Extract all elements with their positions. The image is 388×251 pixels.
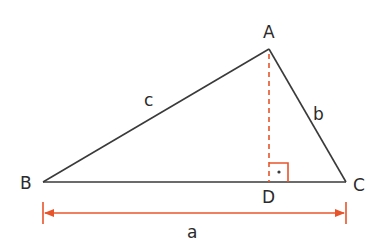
- vertex-label-d: D: [262, 187, 275, 207]
- side-label-a: a: [187, 222, 197, 242]
- side-b-line: [269, 49, 346, 182]
- triangle-diagram: A B C D c b a: [0, 0, 388, 251]
- side-label-b: b: [313, 104, 324, 124]
- vertex-label-c: C: [353, 175, 365, 195]
- side-c-line: [43, 49, 269, 182]
- side-label-c: c: [144, 90, 153, 110]
- vertex-label-a: A: [263, 22, 275, 42]
- vertex-label-b: B: [20, 173, 32, 193]
- right-angle-dot: [277, 170, 280, 173]
